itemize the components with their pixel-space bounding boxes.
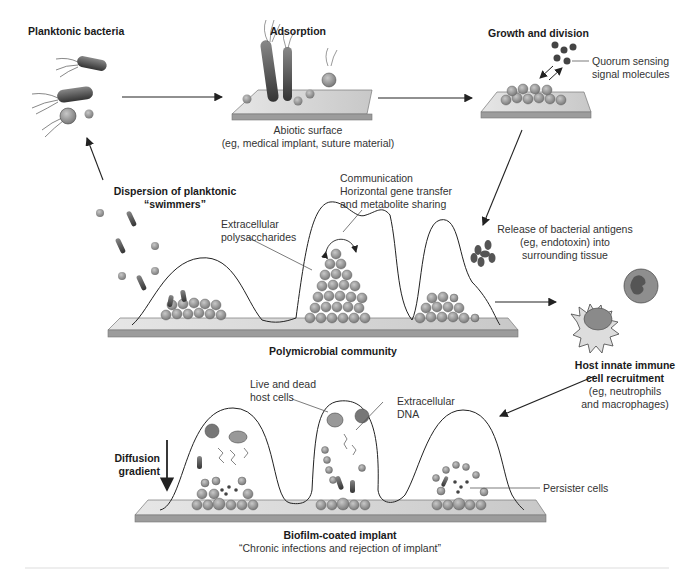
polymicrobial-community-slab: [108, 202, 518, 337]
label-persister-cells: Persister cells: [543, 482, 608, 495]
label-extracellular: Extracellular: [221, 218, 279, 231]
label-signal-molecules: signal molecules: [592, 68, 670, 81]
label-polymicrobial-community: Polymicrobial community: [233, 345, 433, 358]
label-biofilm-coated-implant: Biofilm-coated implant: [230, 529, 450, 542]
label-immune-examples-2: and macrophages): [560, 398, 690, 411]
label-dispersion: Dispersion of planktonic: [100, 185, 250, 198]
growth-surface-slab: [481, 42, 591, 119]
label-quorum-sensing: Quorum sensing: [592, 55, 669, 68]
label-cell-recruitment: cell recruitment: [560, 372, 690, 385]
label-immune-examples-1: (eg, neutrophils: [560, 385, 690, 398]
label-horizontal-gene-transfer: Horizontal gene transfer: [340, 185, 452, 198]
label-chronic-infections: “Chronic infections and rejection of imp…: [200, 542, 480, 555]
label-metabolite-sharing: and metabolite sharing: [340, 198, 446, 211]
label-extracellular-dna-1: Extracellular: [397, 395, 455, 408]
biofilm-coated-implant-slab: [135, 399, 546, 522]
immune-cells-illustration: [571, 269, 658, 353]
label-abiotic-surface: Abiotic surface: [248, 124, 368, 137]
label-host-cells: host cells: [250, 391, 294, 404]
label-gradient: gradient: [90, 465, 160, 478]
label-antigen-example: (eg, endotoxin) into: [480, 236, 650, 249]
label-surrounding-tissue: surrounding tissue: [480, 249, 650, 262]
label-abiotic-surface-examples: (eg, medical implant, suture material): [208, 137, 408, 150]
label-diffusion: Diffusion: [90, 452, 160, 465]
planktonic-bacteria-illustration: [32, 55, 108, 137]
label-extracellular-dna-2: DNA: [397, 408, 419, 421]
dispersing-swimmers: [96, 209, 159, 291]
label-growth-division: Growth and division: [488, 27, 589, 40]
label-live-dead: Live and dead: [250, 378, 316, 391]
label-planktonic-bacteria: Planktonic bacteria: [28, 25, 124, 38]
label-swimmers: “swimmers”: [100, 198, 250, 211]
label-communication: Communication: [340, 172, 413, 185]
label-adsorption: Adsorption: [270, 25, 326, 38]
label-polysaccharides: polysaccharides: [221, 231, 296, 244]
label-host-immune: Host innate immune: [560, 359, 690, 372]
label-antigen-release: Release of bacterial antigens: [480, 223, 650, 236]
